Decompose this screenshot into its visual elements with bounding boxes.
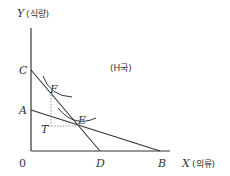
line-cd	[31, 70, 100, 151]
point-t-label: T	[41, 123, 50, 136]
point-d-label: D	[95, 157, 105, 170]
line-ab	[31, 110, 160, 151]
trade-diagram: Y (식량) C A F E T 0 D B X (의류) (H국)	[0, 0, 230, 176]
point-e-label: E	[77, 114, 86, 127]
point-a-label: A	[18, 104, 27, 117]
x-axis-var-label: X	[181, 157, 191, 170]
point-f-label: F	[49, 83, 58, 96]
origin-label: 0	[19, 157, 26, 170]
indifference-curve-e	[58, 108, 96, 121]
y-axis-kor-label: (식량)	[26, 8, 49, 19]
point-b-label: B	[157, 157, 166, 170]
x-axis-kor-label: (의류)	[192, 159, 215, 169]
point-c-label: C	[19, 64, 28, 77]
y-axis-var-label: Y	[17, 7, 26, 20]
country-label: (H국)	[110, 63, 132, 73]
